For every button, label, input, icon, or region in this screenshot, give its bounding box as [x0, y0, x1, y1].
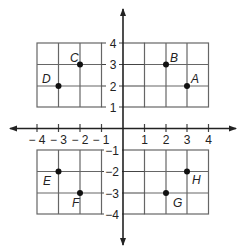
y-tick-label: −3 [105, 187, 119, 201]
point-label-b: B [170, 51, 178, 65]
y-tick-label: −1 [105, 144, 119, 158]
point-label-c: C [70, 51, 79, 65]
point-label-a: A [190, 72, 199, 86]
x-tick-label: − 2 [71, 133, 88, 147]
point-a [184, 83, 190, 89]
point-label-f: F [72, 196, 80, 210]
coordinate-plane: − 4 − 3 − 2 − 1 1 2 3 4 4 3 2 1 −1 −2 −3… [0, 0, 251, 252]
point-g [163, 190, 169, 196]
x-tick-label: 2 [163, 133, 170, 147]
point-h [184, 169, 190, 175]
y-tick-label: 1 [110, 101, 117, 115]
x-tick-label: − 3 [50, 133, 67, 147]
point-label-h: H [192, 173, 201, 187]
x-tick-label: 4 [205, 133, 212, 147]
x-tick-label: 1 [141, 133, 148, 147]
point-d [56, 83, 62, 89]
point-b [163, 62, 169, 68]
y-tick-label: 2 [110, 80, 117, 94]
point-label-e: E [43, 174, 52, 188]
y-tick-label: 3 [110, 58, 117, 72]
y-tick-label: −2 [105, 165, 119, 179]
point-label-d: D [42, 72, 51, 86]
y-tick-label: 4 [110, 37, 117, 51]
x-tick-label: 3 [184, 133, 191, 147]
y-tick-label: −4 [105, 208, 119, 222]
x-tick-label: − 4 [28, 133, 45, 147]
point-e [56, 169, 62, 175]
point-labels: A B C D E F G H [42, 51, 201, 210]
point-label-g: G [173, 196, 182, 210]
